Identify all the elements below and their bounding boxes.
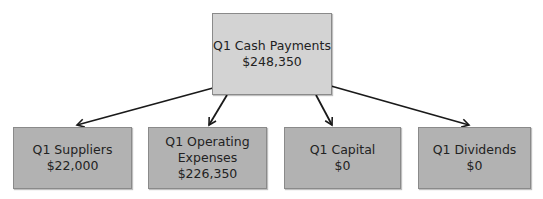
node-label: Q1 Cash Payments bbox=[213, 38, 331, 54]
node-label-line-2: Expenses bbox=[178, 150, 238, 166]
node-q1-suppliers: Q1 Suppliers $22,000 bbox=[13, 127, 132, 189]
node-value: $0 bbox=[335, 158, 351, 174]
node-label: Q1 Suppliers bbox=[33, 142, 113, 158]
node-value: $248,350 bbox=[242, 54, 302, 70]
node-q1-capital: Q1 Capital $0 bbox=[284, 127, 401, 189]
arrow-to-dividends bbox=[331, 86, 469, 125]
node-q1-operating-expenses: Q1 Operating Expenses $226,350 bbox=[148, 127, 267, 189]
node-label-line-1: Q1 Operating bbox=[165, 134, 249, 150]
node-value: $226,350 bbox=[178, 166, 238, 182]
arrow-to-operating-expenses bbox=[209, 95, 227, 125]
node-label: Q1 Dividends bbox=[433, 142, 517, 158]
node-q1-cash-payments: Q1 Cash Payments $248,350 bbox=[212, 13, 332, 95]
node-q1-dividends: Q1 Dividends $0 bbox=[418, 127, 531, 189]
arrow-to-capital bbox=[316, 95, 332, 125]
arrow-to-suppliers bbox=[77, 88, 213, 125]
node-value: $22,000 bbox=[47, 158, 99, 174]
node-value: $0 bbox=[467, 158, 483, 174]
node-label: Q1 Capital bbox=[310, 142, 376, 158]
